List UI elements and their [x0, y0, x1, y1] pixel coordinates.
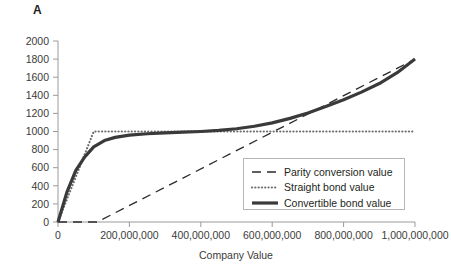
x-tick-label: 400,000,000: [172, 229, 231, 241]
y-tick-label: 2000: [26, 35, 50, 47]
y-tick-label: 1600: [26, 71, 50, 83]
y-tick-label: 800: [31, 143, 49, 155]
y-tick-label: 1800: [26, 53, 50, 65]
y-axis-ticks: 0200400600800100012001400160018002000: [26, 35, 58, 228]
x-tick-label: 800,000,000: [314, 229, 373, 241]
y-tick-label: 1200: [26, 107, 50, 119]
y-tick-label: 1400: [26, 89, 50, 101]
x-tick-label: 600,000,000: [243, 229, 302, 241]
x-axis-ticks: 0200,000,000400,000,000600,000,000800,00…: [55, 222, 449, 241]
y-tick-label: 400: [31, 180, 49, 192]
y-tick-label: 600: [31, 161, 49, 173]
x-tick-label: 0: [55, 229, 61, 241]
legend-entry-label: Convertible bond value: [284, 197, 392, 209]
chart-plot-area: 0200400600800100012001400160018002000 02…: [0, 0, 451, 276]
x-tick-label: 1,000,000,000: [381, 229, 448, 241]
legend-entry-label: Straight bond value: [284, 181, 375, 193]
x-axis-title: Company Value: [199, 249, 273, 261]
legend-entry-label: Parity conversion value: [284, 166, 393, 178]
chart-figure: A 0200400600800100012001400160018002000 …: [0, 0, 451, 276]
chart-legend: Parity conversion valueStraight bond val…: [244, 159, 405, 210]
x-tick-label: 200,000,000: [100, 229, 159, 241]
y-tick-label: 1000: [26, 125, 50, 137]
y-tick-label: 0: [43, 216, 49, 228]
y-tick-label: 200: [31, 198, 49, 210]
